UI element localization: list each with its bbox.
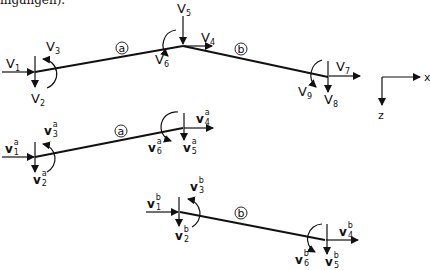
- dof-arrow-v6a: [161, 112, 178, 141]
- dof-label-v5a: va5: [183, 137, 197, 156]
- dof-label-v3b: vb3: [190, 176, 204, 195]
- element-label-b: b: [238, 43, 245, 56]
- dof-arrow-V3: [43, 59, 57, 88]
- structure-diagram: V1 V2 V3 a V5 V4 V6 b V7 V8 V9 x z: [0, 0, 430, 270]
- coordinate-axes: x z: [378, 71, 430, 122]
- dof-label-v4b: vb4: [339, 221, 353, 240]
- dof-label-v3a: va3: [44, 120, 58, 139]
- dof-label-V3: V3: [46, 39, 60, 56]
- dof-label-v1a: va1: [5, 138, 19, 157]
- beam-b: [183, 46, 328, 77]
- x-axis-label: x: [424, 71, 430, 84]
- dof-arrow-V6: [163, 30, 176, 56]
- dof-label-V9: V9: [298, 84, 312, 101]
- element-label-a2: a: [118, 125, 125, 138]
- element-a: va1 va2 va3 a va4 va5 va6: [2, 108, 213, 188]
- dof-label-V5: V5: [177, 1, 191, 18]
- dof-label-v1b: vb1: [147, 193, 161, 212]
- dof-label-V8: V8: [324, 92, 338, 109]
- element-b: vb1 vb2 vb3 b vb4 vb5 vb6: [146, 176, 358, 270]
- dof-label-V2: V2: [31, 91, 45, 108]
- dof-label-v6a: va6: [148, 137, 162, 156]
- dof-label-V1: V1: [6, 56, 20, 73]
- global-structure: V1 V2 V3 a V5 V4 V6 b V7 V8 V9: [2, 1, 360, 109]
- z-axis-label: z: [378, 109, 384, 122]
- dof-label-V7: V7: [336, 59, 350, 76]
- beam-element-b: [180, 212, 325, 240]
- element-label-b2: b: [238, 207, 245, 220]
- element-label-a: a: [119, 42, 126, 55]
- dof-label-v4a: va4: [196, 108, 210, 127]
- dof-label-v6b: vb6: [295, 249, 309, 268]
- dof-label-V4: V4: [201, 30, 215, 47]
- dof-arrow-v3a: [43, 144, 55, 172]
- dof-label-v2b: vb2: [175, 225, 189, 244]
